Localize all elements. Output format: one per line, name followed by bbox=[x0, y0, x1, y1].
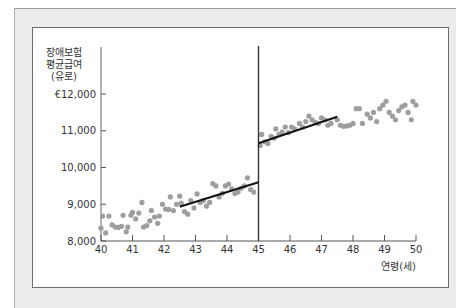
data-point bbox=[265, 141, 270, 146]
data-point bbox=[136, 210, 141, 215]
data-point bbox=[283, 124, 288, 129]
data-point bbox=[124, 229, 129, 234]
data-point bbox=[185, 212, 190, 217]
y-axis-title-line: (유로) bbox=[51, 71, 77, 82]
data-point bbox=[106, 213, 111, 218]
data-point bbox=[177, 194, 182, 199]
x-tick-label: 43 bbox=[189, 244, 202, 255]
x-tick-label: 46 bbox=[284, 244, 297, 255]
data-point bbox=[194, 191, 199, 196]
data-point bbox=[245, 175, 250, 180]
data-point bbox=[251, 190, 256, 195]
data-point bbox=[152, 215, 157, 220]
y-tick-label: 8,000 bbox=[67, 236, 96, 247]
x-tick-label: 41 bbox=[126, 244, 139, 255]
data-point bbox=[144, 223, 149, 228]
x-tick-label: 49 bbox=[378, 244, 391, 255]
data-point bbox=[393, 117, 398, 122]
data-point bbox=[357, 106, 362, 111]
x-tick-label: 42 bbox=[158, 244, 171, 255]
x-tick-label: 40 bbox=[95, 244, 108, 255]
data-point bbox=[409, 117, 414, 122]
data-point bbox=[402, 102, 407, 107]
data-point bbox=[360, 121, 365, 126]
data-point bbox=[147, 218, 152, 223]
data-point bbox=[303, 119, 308, 124]
y-tick-label: 9,000 bbox=[67, 199, 96, 210]
data-point bbox=[120, 213, 125, 218]
data-point bbox=[133, 216, 138, 221]
data-point bbox=[166, 207, 171, 212]
x-tick-label: 47 bbox=[315, 244, 328, 255]
data-point bbox=[125, 224, 130, 229]
data-point bbox=[259, 132, 264, 137]
data-point bbox=[100, 213, 105, 218]
data-point bbox=[406, 110, 411, 115]
data-point bbox=[273, 126, 278, 131]
data-point bbox=[103, 230, 108, 235]
y-axis-title-line: 평균급여 bbox=[46, 59, 82, 70]
data-point bbox=[98, 226, 103, 231]
y-axis-title: 장애보험평균급여(유로) bbox=[46, 47, 82, 82]
data-point bbox=[191, 205, 196, 210]
data-point bbox=[226, 181, 231, 186]
data-point bbox=[383, 99, 388, 104]
fit-line-above-45 bbox=[259, 117, 338, 143]
x-tick-label: 44 bbox=[221, 244, 234, 255]
fit-line-below-45 bbox=[180, 182, 259, 207]
data-point bbox=[213, 183, 218, 188]
data-point bbox=[149, 208, 154, 213]
x-axis-title: 연령(세) bbox=[381, 261, 416, 272]
data-point bbox=[160, 202, 165, 207]
x-tick-label: 50 bbox=[410, 244, 423, 255]
data-point bbox=[207, 200, 212, 205]
data-point bbox=[155, 221, 160, 226]
x-tick-label: 45 bbox=[252, 244, 265, 255]
data-point bbox=[168, 194, 173, 199]
data-point bbox=[171, 208, 176, 213]
data-point bbox=[157, 213, 162, 218]
data-point bbox=[328, 121, 333, 126]
y-tick-label: 10,000 bbox=[61, 162, 96, 173]
data-point bbox=[350, 121, 355, 126]
data-point bbox=[413, 102, 418, 107]
data-point bbox=[371, 110, 376, 115]
y-tick-label: 11,000 bbox=[61, 125, 96, 136]
data-point bbox=[368, 115, 373, 120]
data-point bbox=[130, 210, 135, 215]
x-tick-label: 48 bbox=[347, 244, 360, 255]
data-point bbox=[374, 119, 379, 124]
data-point bbox=[139, 200, 144, 205]
data-point bbox=[174, 202, 179, 207]
y-axis-title-line: 장애보험 bbox=[46, 47, 82, 58]
y-tick-label: €12,000 bbox=[55, 89, 96, 100]
data-point bbox=[119, 224, 124, 229]
